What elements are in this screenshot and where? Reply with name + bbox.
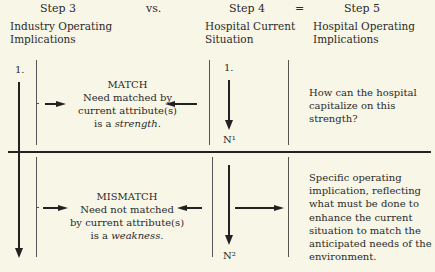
mismatch-right-arrow-icon xyxy=(177,205,187,211)
hospital-implication-arrow-line xyxy=(235,207,275,209)
hospital-item-label: 1. xyxy=(224,62,234,73)
hospital-n1-label: N¹ xyxy=(223,134,236,145)
col1-bracket-tick-top xyxy=(36,103,39,104)
col2-title: Hospital Current Situation xyxy=(205,20,295,46)
match-right-arrow-icon xyxy=(165,101,175,107)
mismatch-right-arrow-line xyxy=(186,207,202,209)
step3-label: Step 3 xyxy=(40,2,76,15)
mismatch-implication-line: implication, reflecting xyxy=(309,184,432,197)
hospital-top-arrow-line xyxy=(228,80,230,122)
hospital-bottom-arrow-down-icon xyxy=(225,235,233,245)
match-line3-prefix: is a xyxy=(94,118,115,129)
vs-label: vs. xyxy=(146,2,161,15)
mismatch-line3-suffix: . xyxy=(160,230,163,241)
col2-left-bracket-bottom xyxy=(212,157,213,257)
col1-title-line2: Implications xyxy=(10,33,112,46)
col2-right-bracket-top xyxy=(288,60,289,145)
mismatch-left-arrow-icon xyxy=(58,205,68,211)
step5-label: Step 5 xyxy=(344,2,380,15)
mismatch-implication-line: situation to match the xyxy=(309,224,432,237)
hospital-implication-arrow-icon xyxy=(274,205,284,211)
col2-right-bracket-bottom xyxy=(288,157,289,257)
match-implication-line: How can the hospital xyxy=(309,86,417,99)
match-line3: is a strength. xyxy=(50,117,205,130)
match-implication-line: strength? xyxy=(309,112,417,125)
col3-title: Hospital Operating Implications xyxy=(313,20,415,46)
col3-title-line2: Implications xyxy=(313,33,415,46)
mismatch-implication-line: enhance the current xyxy=(309,211,432,224)
mismatch-box: MISMATCH Need not matched by current att… xyxy=(52,190,202,242)
mismatch-implication-line: anticipated needs of the xyxy=(309,237,432,250)
col1-title: Industry Operating Implications xyxy=(10,20,112,46)
section-divider xyxy=(8,151,431,153)
mismatch-implication-line: environment. xyxy=(309,250,432,263)
col2-left-bracket-top xyxy=(209,60,210,145)
col1-title-line1: Industry Operating xyxy=(10,20,112,33)
mismatch-line3-prefix: is a xyxy=(91,230,112,241)
industry-arrow-down-icon xyxy=(15,248,23,258)
hospital-top-arrow-down-icon xyxy=(225,120,233,130)
industry-item-label: 1. xyxy=(15,64,25,75)
industry-arrow-line xyxy=(18,82,20,250)
mismatch-line2: by current attribute(s) xyxy=(52,216,202,229)
mismatch-implication: Specific operating implication, reflecti… xyxy=(309,171,432,263)
match-strength-term: strength xyxy=(115,118,158,129)
equals-label: = xyxy=(295,2,304,15)
hospital-n2-label: N² xyxy=(223,250,236,261)
mismatch-left-arrow-line xyxy=(43,207,59,209)
match-line2: current attribute(s) xyxy=(50,104,205,117)
mismatch-implication-line: Specific operating xyxy=(309,171,432,184)
col3-title-line1: Hospital Operating xyxy=(313,20,415,33)
match-implication-line: capitalize on this xyxy=(309,99,417,112)
col2-title-line2: Situation xyxy=(205,33,295,46)
hospital-bottom-arrow-line xyxy=(228,165,230,237)
mismatch-line3: is a weakness. xyxy=(52,229,202,242)
match-right-arrow-line xyxy=(175,103,197,105)
match-left-arrow-icon xyxy=(56,101,66,107)
mismatch-implication-line: what must be done to xyxy=(309,197,432,210)
col1-bracket-tick-bottom xyxy=(36,207,39,208)
match-implication: How can the hospital capitalize on this … xyxy=(309,86,417,126)
step4-label: Step 4 xyxy=(229,2,265,15)
match-title: MATCH xyxy=(50,78,205,91)
match-line3-suffix: . xyxy=(158,118,161,129)
mismatch-title: MISMATCH xyxy=(52,190,202,203)
col2-title-line1: Hospital Current xyxy=(205,20,295,33)
mismatch-weakness-term: weakness xyxy=(111,230,160,241)
